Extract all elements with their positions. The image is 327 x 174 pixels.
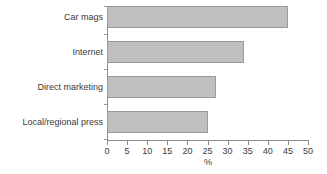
category-axis-labels: Car mags Internet Direct marketing Local… [0, 6, 103, 140]
bar-local-regional-press [107, 111, 208, 133]
category-label: Internet [2, 41, 103, 63]
category-label: Car mags [2, 6, 103, 28]
category-label: Direct marketing [2, 76, 103, 98]
x-axis-tick-label: 15 [156, 146, 178, 156]
plot-area [107, 6, 308, 140]
bar-internet [107, 41, 244, 63]
x-axis-tick [187, 141, 188, 145]
x-axis-tick-label: 20 [176, 146, 198, 156]
x-axis-tick [228, 141, 229, 145]
y-axis-tick [104, 139, 107, 140]
x-axis-tick [268, 141, 269, 145]
x-axis-tick [248, 141, 249, 145]
y-axis-tick [104, 34, 107, 35]
x-axis-tick-label: 35 [237, 146, 259, 156]
x-axis-tick-label: 45 [277, 146, 299, 156]
x-axis-tick-label: 5 [116, 146, 138, 156]
bar-chart: Car mags Internet Direct marketing Local… [0, 0, 327, 174]
x-axis-tick [147, 141, 148, 145]
x-axis-tick-label: 25 [197, 146, 219, 156]
x-axis-tick [288, 141, 289, 145]
x-axis-tick [308, 141, 309, 145]
x-axis-tick-label: 30 [217, 146, 239, 156]
x-axis-tick-label: 40 [257, 146, 279, 156]
x-axis-tick [167, 141, 168, 145]
x-axis-tick [127, 141, 128, 145]
category-label: Local/regional press [2, 111, 103, 133]
x-axis-tick-label: 0 [96, 146, 118, 156]
x-axis-tick [107, 141, 108, 145]
x-axis-tick-label: 50 [297, 146, 319, 156]
y-axis-tick [104, 69, 107, 70]
bar-direct-marketing [107, 76, 216, 98]
x-axis-tick [208, 141, 209, 145]
y-axis-tick [104, 104, 107, 105]
bar-car-mags [107, 6, 288, 28]
x-axis-title: % [107, 157, 309, 167]
x-axis-tick-label: 10 [136, 146, 158, 156]
